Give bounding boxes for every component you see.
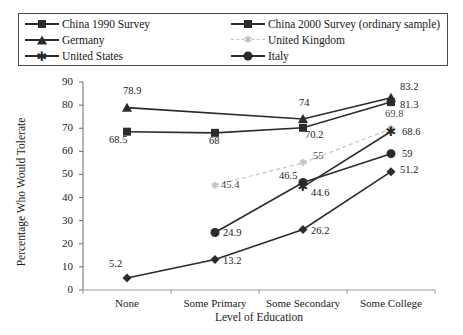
x-tick-label: Some College xyxy=(347,298,435,309)
data-point-label: 51.2 xyxy=(400,164,418,175)
circle-marker-icon xyxy=(387,149,396,158)
diamond-marker-icon xyxy=(299,225,308,234)
y-tick-label: 20 xyxy=(51,238,73,249)
series-line xyxy=(127,98,391,119)
y-tick-label: 0 xyxy=(51,284,73,295)
y-axis-title: Percentage Who Would Tolerate xyxy=(15,87,27,297)
data-point-label: 26.2 xyxy=(311,225,329,236)
tick-marker-icon: ✱ xyxy=(211,180,219,191)
x-tick-label: Some Secondary xyxy=(259,298,347,309)
y-tick-label: 10 xyxy=(51,261,73,272)
y-tick-label: 40 xyxy=(51,192,73,203)
star-marker-icon: ✱ xyxy=(386,124,397,139)
data-point-label: 83.2 xyxy=(400,81,418,92)
circle-marker-icon xyxy=(211,228,220,237)
data-point-label: 44.6 xyxy=(311,187,329,198)
triangle-marker-icon xyxy=(386,93,396,102)
data-point-label: 68.5 xyxy=(109,134,127,145)
diamond-marker-icon xyxy=(123,273,132,282)
chart-figure: China 1990 Survey Germany ✱ United State… xyxy=(0,0,463,335)
data-point-label: 69.8 xyxy=(385,108,403,119)
data-point-label: 13.2 xyxy=(223,255,241,266)
y-tick-label: 50 xyxy=(51,168,73,179)
y-tick-label: 30 xyxy=(51,215,73,226)
y-tick-label: 80 xyxy=(51,99,73,110)
y-tick-label: 70 xyxy=(51,122,73,133)
x-tick-label: None xyxy=(83,298,171,309)
diamond-marker-icon xyxy=(211,255,220,264)
data-point-label: 59 xyxy=(402,148,413,159)
data-point-label: 74 xyxy=(299,97,310,108)
tick-marker-icon: ✱ xyxy=(299,157,307,168)
x-axis-title: Level of Education xyxy=(83,311,435,323)
series-line xyxy=(127,172,391,278)
x-tick-label: Some Primary xyxy=(171,298,259,309)
data-point-label: 68 xyxy=(209,135,220,146)
data-point-label: 45.4 xyxy=(221,179,239,190)
data-point-label: 46.5 xyxy=(279,170,297,181)
y-tick-label: 60 xyxy=(51,145,73,156)
data-point-label: 70.2 xyxy=(305,129,323,140)
data-point-label: 68.6 xyxy=(402,126,420,137)
y-tick-label: 90 xyxy=(51,76,73,87)
data-point-label: 78.9 xyxy=(123,85,141,96)
plot-area: ✱✱✱✱✱ Percentage Who Would Tolerate Leve… xyxy=(0,0,463,335)
data-point-label: 24.9 xyxy=(223,227,241,238)
circle-marker-icon xyxy=(299,178,308,187)
data-point-label: 55 xyxy=(313,150,324,161)
diamond-marker-icon xyxy=(387,167,396,176)
data-point-label: 5.2 xyxy=(109,258,122,269)
